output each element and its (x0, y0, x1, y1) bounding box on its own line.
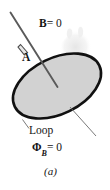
magnetic-field-label: B= 0 (39, 18, 62, 30)
flux-subscript: B (42, 149, 47, 158)
magnetic-field-value: = 0 (47, 17, 62, 29)
right-leader-line (70, 107, 96, 136)
magnetic-field-symbol: B (39, 17, 47, 29)
magnetic-flux-label: ΦB= 0 (32, 142, 62, 156)
flux-value: = 0 (47, 141, 62, 153)
figure-caption: (a) (44, 166, 57, 177)
loop-label: Loop (29, 125, 53, 137)
area-vector-label: A (22, 52, 30, 64)
flux-symbol: Φ (32, 141, 42, 153)
physics-figure: B= 0 A Loop ΦB= 0 (a) (0, 0, 110, 190)
